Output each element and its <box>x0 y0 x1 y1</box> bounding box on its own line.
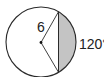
arc-angle-label: 120° <box>79 36 104 52</box>
shaded-segment <box>59 12 76 73</box>
circle-segment-diagram: 6 120° <box>0 0 104 77</box>
radius-lower <box>41 43 59 73</box>
radius-label: 6 <box>37 19 45 35</box>
center-dot <box>40 41 43 44</box>
